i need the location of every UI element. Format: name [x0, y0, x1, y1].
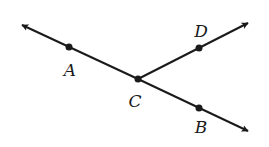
point-c [135, 76, 142, 83]
label-b: B [195, 119, 208, 136]
point-d [196, 45, 203, 52]
ray-cb [138, 79, 248, 131]
label-d: D [194, 23, 208, 40]
label-c: C [128, 93, 141, 110]
geometry-diagram: A C D B [0, 0, 269, 147]
label-a: A [64, 62, 76, 79]
ray-cd [138, 23, 248, 79]
ray-ca [22, 25, 138, 79]
point-a [66, 44, 73, 51]
diagram-figure [0, 0, 269, 147]
point-b [196, 105, 203, 112]
